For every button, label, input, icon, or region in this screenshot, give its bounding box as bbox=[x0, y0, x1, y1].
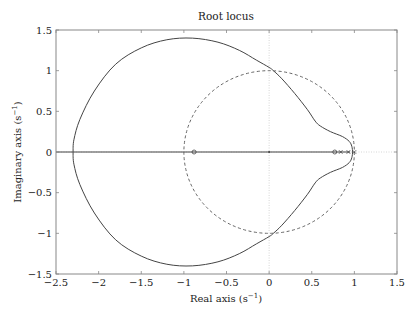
series-group bbox=[56, 38, 354, 266]
x-tick-label: 1.5 bbox=[389, 277, 405, 288]
y-tick-label: −1.5 bbox=[28, 269, 52, 280]
y-axis-label-text: Imaginary axis (s bbox=[12, 116, 23, 203]
x-tick-label: 0.5 bbox=[304, 277, 320, 288]
y-tick-label: 1 bbox=[46, 65, 52, 76]
x-ticks: −2.5−2−1.5−1−0.500.511.5 bbox=[44, 30, 405, 288]
x-axis-label-sup: −1 bbox=[248, 292, 258, 300]
x-tick-label: −0.5 bbox=[214, 277, 238, 288]
y-axis-label-end: ) bbox=[12, 101, 23, 105]
y-axis-label: Imaginary axis (s−1) bbox=[11, 101, 23, 202]
root-locus-branch-upper bbox=[73, 38, 353, 152]
x-tick-label: −1 bbox=[177, 277, 192, 288]
origin-dot-marker bbox=[268, 151, 270, 153]
y-axis-label-sup: −1 bbox=[11, 105, 19, 115]
x-tick-label: −2 bbox=[91, 277, 106, 288]
y-tick-label: 0.5 bbox=[36, 106, 52, 117]
x-tick-label: 0 bbox=[266, 277, 272, 288]
x-axis-label: Real axis (s−1) bbox=[190, 292, 262, 304]
x-axis-label-text: Real axis (s bbox=[190, 293, 248, 304]
chart-title: Root locus bbox=[198, 10, 254, 22]
root-locus-chart: Root locus −2.5−2−1.5−1−0.500.511.5 1.51… bbox=[0, 0, 417, 320]
root-locus-branch-lower bbox=[73, 152, 353, 266]
y-tick-label: −1 bbox=[37, 228, 52, 239]
x-tick-label: 1 bbox=[351, 277, 357, 288]
y-tick-label: 1.5 bbox=[36, 25, 52, 36]
x-axis-label-end: ) bbox=[258, 293, 262, 304]
y-tick-label: 0 bbox=[46, 147, 52, 158]
y-tick-label: −0.5 bbox=[28, 187, 52, 198]
x-tick-label: −1.5 bbox=[129, 277, 153, 288]
